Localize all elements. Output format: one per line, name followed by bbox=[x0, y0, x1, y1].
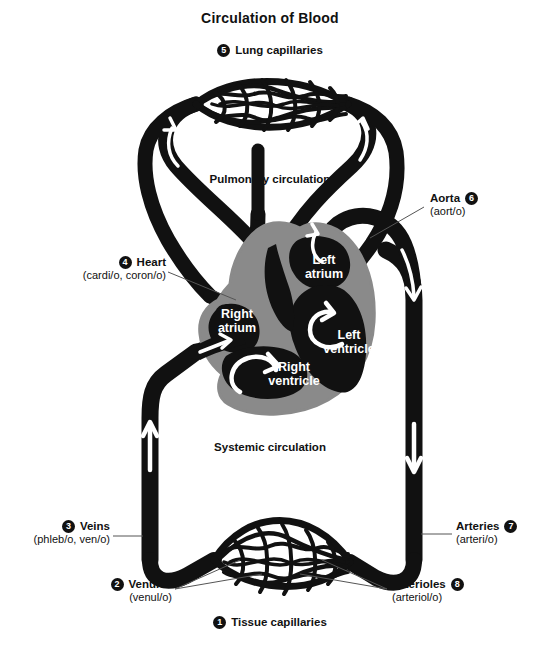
callout-tissue-capillaries: 1 Tissue capillaries bbox=[0, 616, 540, 629]
chamber-label-right-ventricle: Right ventricle bbox=[258, 360, 330, 388]
left-atrium-line1: Left bbox=[296, 253, 352, 267]
callout-number-4: 4 bbox=[119, 256, 132, 269]
callout-root-aorta: (aort/o) bbox=[430, 205, 478, 218]
callout-number-2: 2 bbox=[111, 578, 124, 591]
systemic-circulation-label: Systemic circulation bbox=[0, 441, 540, 453]
right-atrium-line1: Right bbox=[206, 307, 268, 321]
callout-term-venules: Venules bbox=[129, 578, 172, 591]
right-ventricle-line1: Right bbox=[258, 360, 330, 374]
callout-veins: 3 Veins (phleb/o, ven/o) bbox=[0, 520, 110, 546]
callout-heart: 4 Heart (cardi/o, coron/o) bbox=[16, 256, 166, 282]
callout-lung-capillaries: 5 Lung capillaries bbox=[0, 44, 540, 57]
callout-root-venules: (venul/o) bbox=[62, 591, 172, 604]
callout-root-arterioles: (arteriol/o) bbox=[392, 591, 464, 604]
tissue-capillary-bed bbox=[214, 521, 350, 595]
callout-root-heart: (cardi/o, coron/o) bbox=[16, 269, 166, 282]
circulation-illustration bbox=[0, 0, 540, 646]
chamber-label-left-ventricle: Left ventricle bbox=[316, 328, 382, 356]
left-ventricle-line1: Left bbox=[316, 328, 382, 342]
pulmonary-circulation-label: Pulmonary circulation bbox=[0, 173, 540, 185]
callout-root-arteries: (arteri/o) bbox=[456, 533, 517, 546]
callout-term-arterioles: Arterioles bbox=[392, 578, 446, 591]
left-ventricle-line2: ventricle bbox=[316, 342, 382, 356]
callout-number-7: 7 bbox=[504, 520, 517, 533]
callout-term-arteries: Arteries bbox=[456, 520, 499, 533]
callout-number-6: 6 bbox=[465, 192, 478, 205]
callout-term-veins: Veins bbox=[80, 520, 110, 533]
diagram-canvas: Circulation of Blood bbox=[0, 0, 540, 646]
callout-number-3: 3 bbox=[62, 520, 75, 533]
lung-capillary-bed bbox=[196, 80, 348, 130]
callout-term-lung-capillaries: Lung capillaries bbox=[235, 44, 323, 57]
right-ventricle-line2: ventricle bbox=[258, 374, 330, 388]
chamber-label-left-atrium: Left atrium bbox=[296, 253, 352, 281]
callout-aorta: Aorta 6 (aort/o) bbox=[430, 192, 478, 218]
callout-term-tissue-capillaries: Tissue capillaries bbox=[231, 616, 327, 629]
chamber-label-right-atrium: Right atrium bbox=[206, 307, 268, 335]
right-atrium-line2: atrium bbox=[206, 321, 268, 335]
callout-term-aorta: Aorta bbox=[430, 192, 460, 205]
callout-arteries: Arteries 7 (arteri/o) bbox=[456, 520, 517, 546]
callout-number-5: 5 bbox=[217, 44, 230, 57]
vein-trunk-left bbox=[150, 352, 196, 560]
callout-venules: 2 Venules (venul/o) bbox=[62, 578, 172, 604]
callout-term-heart: Heart bbox=[137, 256, 166, 269]
left-atrium-line2: atrium bbox=[296, 267, 352, 281]
callout-number-1: 1 bbox=[213, 616, 226, 629]
callout-number-8: 8 bbox=[451, 578, 464, 591]
callout-root-veins: (phleb/o, ven/o) bbox=[0, 533, 110, 546]
callout-arterioles: Arterioles 8 (arteriol/o) bbox=[392, 578, 464, 604]
